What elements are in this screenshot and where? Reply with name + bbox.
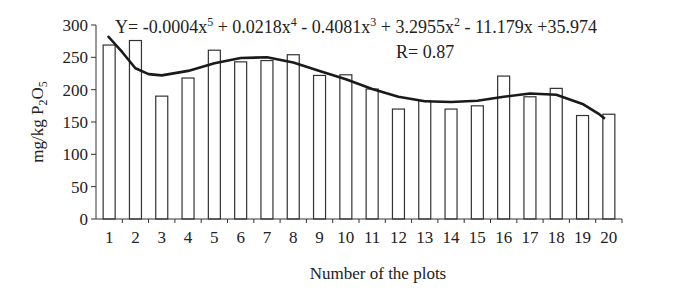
x-tick-label: 15 <box>469 228 486 247</box>
bar <box>314 75 326 219</box>
x-tick-label: 4 <box>184 228 193 247</box>
bar <box>235 62 247 219</box>
x-tick-label: 10 <box>337 228 354 247</box>
x-tick-label: 3 <box>158 228 167 247</box>
y-tick-label: 300 <box>63 16 89 35</box>
bar <box>156 96 168 219</box>
x-tick-label: 7 <box>263 228 272 247</box>
y-tick-label: 250 <box>63 48 89 67</box>
x-tick-label: 20 <box>600 228 617 247</box>
bar <box>445 109 457 219</box>
y-tick-label: 100 <box>63 145 89 164</box>
bar <box>366 89 378 219</box>
bar <box>550 88 562 219</box>
bar-chart: 050100150200250300 123456789101112131415… <box>0 0 684 301</box>
bar <box>524 97 536 219</box>
r-value: R= 0.87 <box>396 42 454 62</box>
bars <box>103 41 615 219</box>
x-tick-label: 14 <box>443 228 461 247</box>
x-tick-label: 11 <box>364 228 380 247</box>
x-tick-label: 16 <box>495 228 512 247</box>
x-tick-label: 6 <box>236 228 245 247</box>
y-axis-ticks: 050100150200250300 <box>63 16 97 229</box>
x-tick-label: 2 <box>131 228 140 247</box>
bar <box>603 114 615 219</box>
bar <box>208 50 220 219</box>
bar <box>392 109 404 219</box>
x-axis-ticks: 1234567891011121314151617181920 <box>105 219 622 247</box>
bar <box>340 75 352 219</box>
y-axis-title: mg/kg P2O5 <box>28 81 50 162</box>
bar <box>287 55 299 219</box>
x-tick-label: 8 <box>289 228 298 247</box>
x-tick-label: 1 <box>105 228 114 247</box>
bar <box>261 61 273 219</box>
y-tick-label: 50 <box>71 178 88 197</box>
x-tick-label: 19 <box>574 228 591 247</box>
x-tick-label: 17 <box>521 228 539 247</box>
bar <box>471 106 483 219</box>
y-tick-label: 200 <box>63 81 89 100</box>
bar <box>419 101 431 219</box>
y-tick-label: 150 <box>63 113 89 132</box>
y-tick-label: 0 <box>80 210 89 229</box>
bar <box>577 116 589 219</box>
bar <box>103 45 115 219</box>
x-tick-label: 13 <box>416 228 433 247</box>
x-tick-label: 12 <box>390 228 407 247</box>
x-tick-label: 18 <box>548 228 565 247</box>
bar <box>182 78 194 219</box>
x-tick-label: 9 <box>315 228 324 247</box>
trend-equation: Y= -0.0004x5 + 0.0218x4 - 0.4081x3 + 3.2… <box>115 15 597 37</box>
x-axis-title: Number of the plots <box>310 264 446 283</box>
x-tick-label: 5 <box>210 228 219 247</box>
